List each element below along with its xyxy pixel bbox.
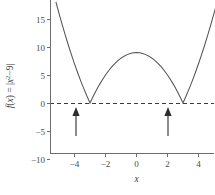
- chart-figure: 15 10 5 0 −5 −10 −4 −2 0 2 4 x f: [0, 0, 215, 195]
- svg-text:f(x) = |x2−9|: f(x) = |x2−9|: [4, 64, 17, 109]
- x-tick-label: −2: [101, 159, 111, 169]
- y-tick-label: −5: [35, 127, 45, 137]
- x-tick-label: −4: [70, 159, 80, 169]
- y-tick-labels: 15 10 5 0 −5 −10: [31, 15, 46, 165]
- x-tick-label: 0: [134, 159, 139, 169]
- y-tick-label: 0: [41, 99, 46, 109]
- y-tick-label: 5: [41, 71, 46, 81]
- function-plot: 15 10 5 0 −5 −10 −4 −2 0 2 4 x f: [0, 0, 215, 195]
- x-tick-label: 4: [196, 159, 201, 169]
- function-curve: [56, 2, 215, 103]
- zero-arrow-right: [164, 107, 171, 136]
- zero-arrow-left: [72, 107, 79, 136]
- y-tick-label: −10: [31, 155, 46, 165]
- x-tick-labels: −4 −2 0 2 4: [70, 159, 202, 169]
- x-tick-label: 2: [165, 159, 170, 169]
- y-tick-marks: [47, 20, 50, 160]
- y-tick-label: 15: [36, 15, 46, 25]
- x-axis-title: x: [133, 174, 139, 184]
- y-tick-label: 10: [36, 43, 46, 53]
- y-axis-title: f(x) = |x2−9|: [4, 64, 17, 109]
